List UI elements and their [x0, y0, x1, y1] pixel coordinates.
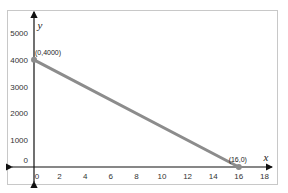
x-tick-label: 12	[183, 172, 192, 181]
data-point-label: (0,4000)	[35, 49, 61, 57]
x-tick-label: 4	[83, 172, 88, 181]
x-tick-label: 14	[209, 172, 218, 181]
x-tick-label: 2	[57, 172, 62, 181]
data-point-label: (16,0)	[229, 156, 247, 164]
y-axis-label: y	[37, 19, 43, 31]
y-tick-label: 5000	[10, 29, 28, 38]
x-tick-label: 16	[234, 172, 243, 181]
y-tick-label: 1000	[10, 136, 28, 145]
y-tick-label: 3000	[10, 83, 28, 92]
y-tick-label: 2000	[10, 109, 28, 118]
y-tick-label: 0	[24, 156, 29, 165]
x-tick-label: 8	[134, 172, 139, 181]
x-tick-label: 0	[35, 172, 40, 181]
data-point	[31, 57, 37, 63]
data-point	[236, 164, 242, 170]
x-tick-label: 6	[109, 172, 114, 181]
y-tick-label: 4000	[10, 56, 28, 65]
x-axis-label: x	[263, 151, 269, 163]
series-line	[34, 60, 239, 167]
chart: 024681012141618010002000300040005000xy(0…	[0, 0, 288, 193]
x-tick-label: 18	[260, 172, 269, 181]
x-tick-label: 10	[158, 172, 167, 181]
